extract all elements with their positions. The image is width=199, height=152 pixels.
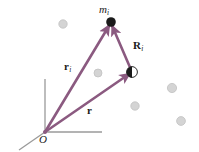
vector-r-i-label: ri: [64, 61, 71, 72]
vector-R-i-arrow: [112, 26, 132, 72]
vector-r-label-base: r: [87, 104, 92, 116]
mass-particle-dot: [106, 17, 116, 27]
cloud-particle: [177, 117, 186, 126]
mass-label-base: m: [99, 3, 107, 15]
vector-diagram-figure: mi Ri ri r O: [0, 0, 199, 152]
diagram-canvas: [0, 0, 199, 152]
vector-r-label: r: [87, 105, 92, 116]
origin-label-base: O: [39, 133, 47, 145]
origin-label: O: [39, 134, 47, 145]
vector-R-label: Ri: [133, 40, 143, 51]
center-of-mass-symbol: [127, 67, 138, 78]
vector-r-i-label-sub: i: [69, 65, 71, 74]
vector-R-label-base: R: [133, 39, 141, 51]
cloud-particle: [94, 69, 102, 77]
vector-r-arrow: [45, 74, 130, 132]
vector-r-i-arrow: [45, 26, 109, 133]
mass-label: mi: [99, 4, 109, 15]
vector-group: [45, 26, 132, 133]
cloud-particle: [167, 83, 176, 92]
cloud-particle: [59, 20, 67, 28]
mass-label-sub: i: [107, 8, 109, 17]
cloud-particle: [131, 102, 139, 110]
